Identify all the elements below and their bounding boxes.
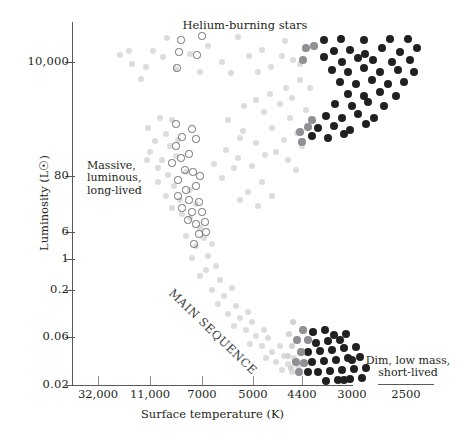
data-point [310,42,318,50]
data-point [360,92,368,100]
data-point [193,201,199,207]
data-point [217,277,223,283]
x-tick [202,376,203,385]
data-point [299,326,307,334]
y-axis-title: Luminosity (L☉) [37,123,51,283]
x-tick [253,376,254,385]
data-point [165,172,171,178]
data-point [338,114,346,122]
annotation-dim-low-mass: Dim, low mass,short-lived [358,355,458,380]
data-point [160,54,166,60]
data-point [237,197,243,203]
data-point [388,58,396,66]
data-point [331,100,339,108]
data-point [279,367,285,373]
data-point [184,216,191,223]
annotation-line: long-lived [87,185,142,197]
data-point [241,103,247,109]
data-point [177,154,184,161]
data-point [346,126,354,134]
data-point [299,143,305,149]
scatter-plot-area [0,0,467,447]
data-point [322,112,330,120]
data-point [259,47,265,53]
data-point [157,115,163,121]
data-point [384,80,392,88]
data-point [292,358,300,366]
annotation-line: short-lived [358,367,458,379]
data-point [169,205,175,211]
data-point [255,69,261,75]
data-point [285,361,291,367]
data-point [314,368,322,376]
data-point [328,346,336,354]
data-point [261,327,267,333]
data-point [394,66,402,74]
data-point [225,311,231,317]
data-point [303,107,309,113]
data-point [386,35,394,43]
data-point [396,48,404,56]
data-point [215,301,221,307]
data-point [173,64,180,71]
data-point [308,358,316,366]
data-point [279,53,285,59]
data-point [316,347,324,355]
data-point [348,102,356,110]
data-point [293,336,301,344]
data-point [364,98,372,106]
data-point [253,333,259,339]
data-point [235,34,241,40]
data-point [380,102,388,110]
data-point [340,376,348,384]
annotation-line: luminous, [87,172,142,184]
data-point [352,343,360,351]
main-sequence-label: MAIN SEQUENCE [166,286,260,377]
data-point [144,157,150,163]
data-point [286,331,293,338]
data-point [285,353,292,360]
data-point [346,46,354,54]
data-point [294,130,300,136]
data-point [330,122,338,130]
data-point [320,53,328,61]
data-point [336,78,344,86]
data-point [340,130,348,138]
data-point [334,376,342,384]
data-point [299,56,307,64]
data-point [259,343,265,349]
data-point [413,44,421,52]
data-point [187,215,193,221]
data-point [289,343,296,350]
data-point [192,220,199,227]
data-point [178,133,185,140]
data-point [245,189,251,195]
data-point [289,95,295,101]
data-point [188,208,195,215]
data-point [145,125,151,131]
data-point [295,368,303,376]
data-point [290,57,296,63]
data-point [324,134,332,142]
data-point [392,92,400,100]
data-point [228,70,234,76]
data-point [253,140,259,146]
data-point [328,66,336,74]
y-tick-label: 0.06 [43,331,69,343]
data-point [231,323,237,329]
data-point [291,355,297,361]
data-point [225,117,231,123]
data-point [344,354,352,362]
data-point [172,142,179,149]
data-point [197,225,203,231]
data-point [167,143,173,149]
data-point [307,85,313,91]
x-tick [98,376,99,385]
data-point [159,157,165,163]
data-point [181,166,188,173]
data-point [354,54,362,62]
data-point [178,204,185,211]
data-point [340,344,348,352]
data-point [330,331,338,339]
data-point [289,369,295,375]
